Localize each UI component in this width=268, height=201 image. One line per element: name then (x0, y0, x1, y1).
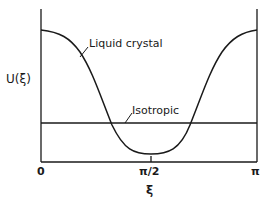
x-tick-pi: π (251, 166, 260, 177)
x-axis-label: ξ (146, 184, 153, 196)
x-tick-pi-half: π/2 (139, 166, 159, 177)
axes (41, 9, 257, 162)
y-axis-label: U(ξ) (6, 73, 31, 85)
isotropic-label: Isotropic (132, 105, 179, 116)
x-tick-0: 0 (37, 166, 45, 177)
isotropic-leader (125, 113, 132, 123)
liquid-crystal-leader (80, 47, 88, 57)
liquid-crystal-label: Liquid crystal (89, 38, 163, 49)
